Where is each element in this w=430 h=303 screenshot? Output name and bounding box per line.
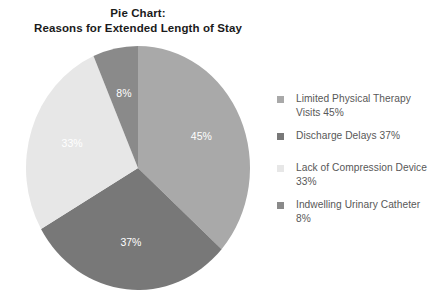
chart-title-line-2: Reasons for Extended Length of Stay	[0, 21, 276, 36]
legend-item-label: Discharge Delays 37%	[296, 129, 429, 143]
chart-title-line-1: Pie Chart:	[0, 6, 276, 21]
legend-item-limited-physical-therapy-visits[interactable]: Limited Physical Therapy Visits 45%	[277, 92, 429, 119]
pie-slice-label-33: 33%	[62, 137, 83, 149]
legend-swatch-icon	[277, 202, 284, 209]
legend-swatch-icon	[277, 96, 284, 103]
pie-slice-label-8: 8%	[116, 87, 131, 99]
legend-swatch-icon	[277, 165, 284, 172]
legend-item-label: Lack of Compression Device 33%	[296, 161, 429, 188]
legend-item-lack-of-compression-device[interactable]: Lack of Compression Device 33%	[277, 161, 429, 188]
pie-slices	[26, 46, 250, 290]
chart-title: Pie Chart: Reasons for Extended Length o…	[0, 6, 276, 36]
pie-slice-label-45: 45%	[191, 130, 212, 142]
legend-swatch-icon	[277, 133, 284, 140]
legend-item-label: Limited Physical Therapy Visits 45%	[296, 92, 429, 119]
legend-item-indwelling-urinary-catheter[interactable]: Indwelling Urinary Catheter 8%	[277, 198, 429, 225]
pie-svg: 45% 37% 33% 8%	[26, 46, 250, 290]
pie-plot-area: 45% 37% 33% 8%	[26, 46, 250, 290]
pie-slice-label-37: 37%	[120, 236, 141, 248]
legend-item-discharge-delays[interactable]: Discharge Delays 37%	[277, 129, 429, 151]
pie-chart-figure: Pie Chart: Reasons for Extended Length o…	[0, 0, 430, 303]
chart-legend: Limited Physical Therapy Visits 45% Disc…	[277, 92, 429, 235]
legend-item-label: Indwelling Urinary Catheter 8%	[296, 198, 429, 225]
